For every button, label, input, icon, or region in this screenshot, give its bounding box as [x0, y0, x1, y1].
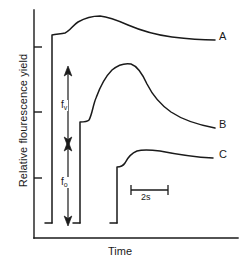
curve-a-label: A — [219, 31, 226, 42]
fo-subscript-text: o — [64, 181, 68, 188]
figure-container: Relative flourescence yield Time A B C f… — [0, 0, 243, 262]
fv-fo-arrow-annotation — [64, 66, 72, 226]
scale-bar-label: 2s — [141, 193, 151, 202]
curve-a-path — [52, 16, 215, 223]
fv-subscript-text: v — [64, 104, 68, 111]
y-axis-label: Relative flourescence yield — [18, 51, 29, 191]
fo-annotation-label: fo — [60, 177, 69, 188]
curve-group — [52, 16, 215, 223]
fv-annotation-label: fv — [60, 100, 68, 111]
curve-c-label: C — [219, 149, 227, 160]
x-axis-label: Time — [108, 246, 132, 257]
fluorescence-induction-plot — [0, 0, 243, 262]
curve-b-label: B — [219, 119, 226, 130]
axis-group — [34, 10, 238, 238]
